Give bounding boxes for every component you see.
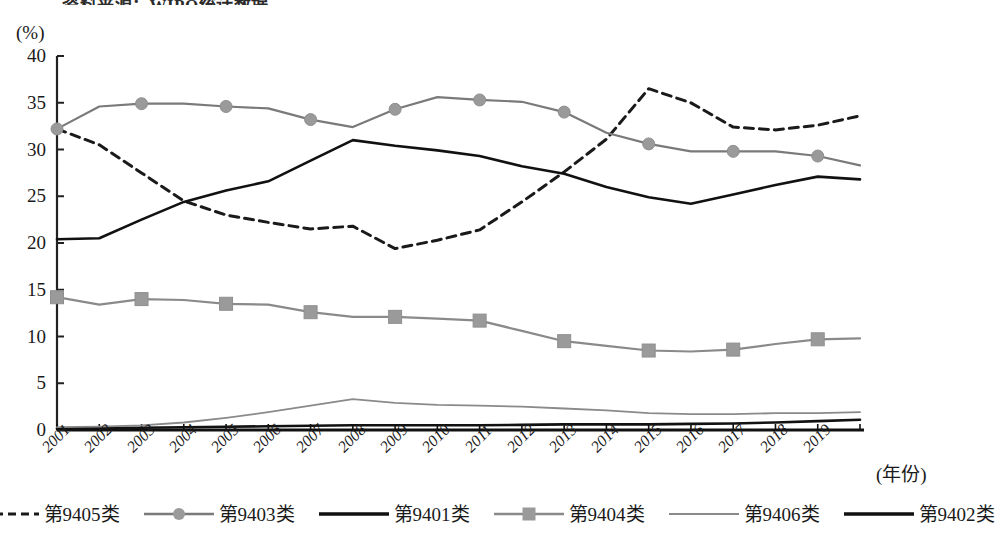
series-marker-第9404类	[811, 333, 824, 346]
legend-label: 第9402类	[919, 505, 995, 524]
series-marker-第9404类	[304, 306, 317, 319]
legend-item-第9403类[interactable]: 第9403类	[142, 505, 295, 524]
y-tick-label: 10	[8, 327, 46, 346]
series-marker-第9403类	[727, 145, 739, 157]
series-marker-第9403类	[558, 106, 570, 118]
thin-gray-line-swatch	[667, 506, 741, 522]
y-tick-label: 30	[8, 140, 46, 159]
gray-circle-line-swatch	[142, 506, 216, 522]
series-marker-第9403类	[643, 138, 655, 150]
y-tick-label: 0	[8, 420, 46, 439]
series-marker-第9404类	[473, 314, 486, 327]
y-tick-label: 15	[8, 280, 46, 299]
y-tick-label: 35	[8, 93, 46, 112]
series-line-第9402类	[57, 140, 860, 239]
chart-legend: 第9405类第9403类第9401类第9404类第9406类第9402类	[0, 497, 961, 531]
dashed-line-swatch	[0, 506, 41, 522]
series-line-第9405类	[57, 89, 860, 249]
legend-item-第9406类[interactable]: 第9406类	[667, 505, 820, 524]
series-marker-第9403类	[812, 150, 824, 162]
black-thick-line-swatch	[842, 506, 916, 522]
series-marker-第9404类	[389, 310, 402, 323]
legend-item-第9402类[interactable]: 第9402类	[842, 505, 995, 524]
gray-square-line-swatch	[492, 506, 566, 522]
y-tick-label: 25	[8, 186, 46, 205]
black-line-swatch	[317, 506, 391, 522]
axes-group	[57, 56, 864, 430]
series-marker-第9404类	[642, 344, 655, 357]
series-marker-第9404类	[135, 293, 148, 306]
y-tick-label: 5	[8, 373, 46, 392]
legend-item-第9405类[interactable]: 第9405类	[0, 505, 120, 524]
x-axis-title: (年份)	[876, 459, 927, 486]
y-tick-label: 20	[8, 233, 46, 252]
legend-label: 第9406类	[744, 505, 820, 524]
series-marker-第9403类	[305, 114, 317, 126]
series-marker-第9404类	[727, 343, 740, 356]
legend-item-第9401类[interactable]: 第9401类	[317, 505, 470, 524]
series-marker-第9403类	[389, 103, 401, 115]
series-marker-第9404类	[558, 335, 571, 348]
series-marker-第9403类	[136, 98, 148, 110]
series-marker-第9403类	[474, 94, 486, 106]
legend-label: 第9401类	[394, 505, 470, 524]
series-group	[51, 89, 861, 429]
legend-label: 第9403类	[219, 505, 295, 524]
y-tick-label: 40	[8, 46, 46, 65]
series-marker-第9404类	[51, 291, 64, 304]
legend-label: 第9405类	[44, 505, 120, 524]
series-line-第9403类	[57, 97, 860, 165]
series-marker-第9403类	[220, 100, 232, 112]
legend-item-第9404类[interactable]: 第9404类	[492, 505, 645, 524]
legend-label: 第9404类	[569, 505, 645, 524]
series-marker-第9404类	[220, 297, 233, 310]
series-marker-第9403类	[51, 123, 63, 135]
